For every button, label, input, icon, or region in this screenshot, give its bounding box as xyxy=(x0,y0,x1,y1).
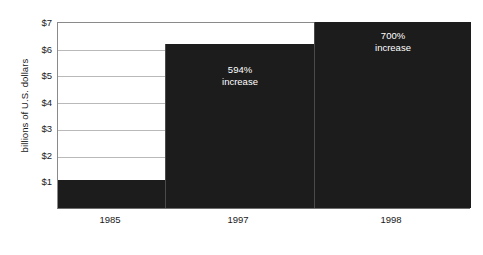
bar-1998: 700% increase xyxy=(314,22,471,208)
y-tick-label-6: $6 xyxy=(14,43,52,54)
x-tick-label-1998: 1998 xyxy=(346,214,436,225)
bar-1985 xyxy=(58,180,165,208)
y-tick-label-7: $7 xyxy=(14,17,52,28)
x-tick-label-1997: 1997 xyxy=(193,214,283,225)
bar-1998-annotation-value: 700% xyxy=(315,30,471,42)
plot-area: 594% increase 700% increase xyxy=(57,22,470,209)
x-tick-label-1985: 1985 xyxy=(65,214,155,225)
bar-1998-annotation-text: increase xyxy=(315,42,471,54)
bar-1997-annotation-text: increase xyxy=(166,76,314,88)
bar-1997: 594% increase xyxy=(165,44,314,208)
y-tick-label-3: $3 xyxy=(14,123,52,134)
bar-1997-annotation-value: 594% xyxy=(166,64,314,76)
y-tick-label-2: $2 xyxy=(14,149,52,160)
y-tick-label-5: $5 xyxy=(14,70,52,81)
y-tick-label-4: $4 xyxy=(14,96,52,107)
y-tick-label-1: $1 xyxy=(14,176,52,187)
bar-chart-figure: billions of U.S. dollars $7 $6 $5 $4 $3 … xyxy=(0,0,483,255)
